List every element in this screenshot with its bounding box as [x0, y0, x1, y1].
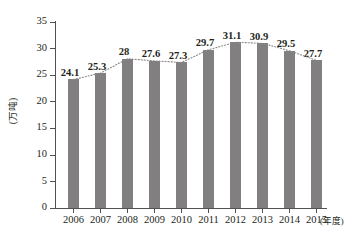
x-tick-mark [181, 209, 182, 214]
y-tick-mark [50, 181, 55, 182]
y-tick-label: 10 [6, 149, 47, 160]
bar-value-label: 25.3 [73, 61, 121, 72]
y-tick-mark [50, 208, 55, 209]
x-tick-mark [127, 209, 128, 214]
x-tick-mark [100, 209, 101, 214]
bar [68, 79, 79, 207]
y-tick-label: 25 [6, 69, 47, 80]
x-tick-mark [316, 209, 317, 214]
y-tick-mark [50, 101, 55, 102]
bar [122, 59, 133, 208]
y-tick-label: 35 [6, 16, 47, 27]
bar [203, 50, 214, 208]
bar-chart: (万吨) 05101520253035 20062007200820092010… [0, 0, 357, 246]
x-tick-mark [73, 209, 74, 214]
x-tick-mark [154, 209, 155, 214]
bar [284, 51, 295, 208]
x-axis-line [55, 208, 327, 209]
y-axis-line [55, 21, 56, 209]
bar [149, 61, 160, 208]
bar [230, 42, 241, 207]
y-tick-mark [50, 155, 55, 156]
x-tick-mark [208, 209, 209, 214]
x-tick-mark [289, 209, 290, 214]
y-tick-label: 0 [6, 202, 47, 213]
y-tick-label: 30 [6, 43, 47, 54]
x-tick-mark [262, 209, 263, 214]
bar-value-label: 27.3 [154, 50, 202, 61]
y-tick-label: 5 [6, 176, 47, 187]
x-tick-mark [235, 209, 236, 214]
bar [176, 62, 187, 207]
bar-value-label: 27.7 [289, 48, 337, 59]
y-tick-label: 20 [6, 96, 47, 107]
x-axis-unit-label: (年度) [320, 215, 344, 227]
bar [257, 43, 268, 207]
y-tick-mark [50, 48, 55, 49]
y-tick-mark [50, 128, 55, 129]
bar [95, 73, 106, 208]
y-tick-mark [50, 22, 55, 23]
y-tick-label: 15 [6, 122, 47, 133]
bar [311, 60, 322, 207]
